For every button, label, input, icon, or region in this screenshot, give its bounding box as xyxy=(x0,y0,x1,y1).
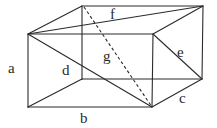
front-right-edge xyxy=(152,34,153,107)
back-right-edge xyxy=(202,6,203,79)
depth-bottom-right-edge-c xyxy=(152,79,202,107)
box-diagram: a b c d e f g xyxy=(0,0,217,128)
labels: a b c d e f g xyxy=(8,6,186,126)
label-c: c xyxy=(179,90,186,106)
label-g: g xyxy=(103,48,111,64)
label-b: b xyxy=(80,110,88,126)
space-diagonal-g xyxy=(84,7,152,107)
label-f: f xyxy=(110,6,115,22)
label-d: d xyxy=(62,62,70,78)
front-face-diagonal-d xyxy=(28,34,152,107)
label-e: e xyxy=(177,44,184,60)
label-a: a xyxy=(8,60,15,76)
back-face xyxy=(82,6,203,79)
depth-bottom-left-edge xyxy=(28,79,82,107)
